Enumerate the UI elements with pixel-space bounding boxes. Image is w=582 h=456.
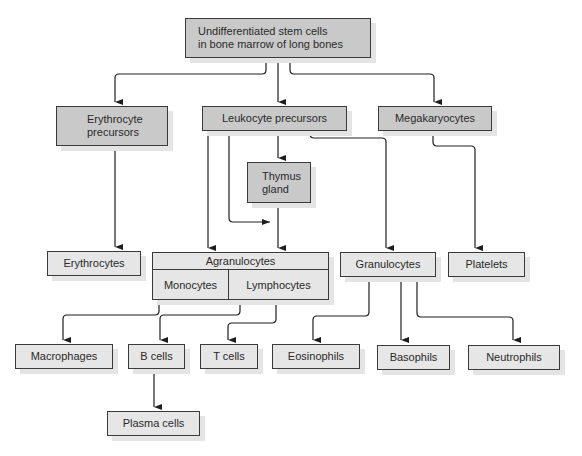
node-platelets: Platelets (448, 252, 525, 277)
node-agranulocytes: Agranulocytes Monocytes Lymphocytes (152, 252, 329, 300)
node-label: Granulocytes (356, 258, 421, 271)
node-label: T cells (213, 350, 245, 363)
node-lymphocytes: Lymphocytes (229, 270, 328, 299)
node-label: Megakaryocytes (395, 112, 475, 125)
agranulocytes-header: Agranulocytes (153, 253, 328, 270)
node-leukocyte-precursors: Leukocyte precursors (202, 106, 347, 131)
node-stem-cells: Undifferentiated stem cells in bone marr… (185, 18, 371, 58)
node-label: B cells (140, 350, 172, 363)
node-label: Platelets (465, 258, 507, 271)
node-label: Leukocyte precursors (222, 112, 327, 125)
node-basophils: Basophils (377, 345, 450, 370)
node-label: Erythrocytes (63, 257, 124, 270)
node-label: Macrophages (31, 350, 98, 363)
node-neutrophils: Neutrophils (468, 345, 560, 370)
node-label: Basophils (390, 351, 438, 364)
blood-cell-diagram: Undifferentiated stem cells in bone marr… (0, 0, 582, 456)
node-label: Undifferentiated stem cells in bone marr… (198, 25, 343, 51)
node-label: Neutrophils (486, 351, 542, 364)
node-t-cells: T cells (200, 344, 258, 369)
connector-arrows (0, 0, 582, 456)
node-eosinophils: Eosinophils (272, 344, 360, 369)
node-monocytes: Monocytes (153, 270, 229, 299)
node-thymus-gland: Thymus gland (247, 162, 311, 203)
node-erythrocytes: Erythrocytes (47, 251, 141, 276)
node-macrophages: Macrophages (15, 344, 113, 369)
node-label: Thymus gland (262, 170, 301, 196)
node-granulocytes: Granulocytes (340, 252, 436, 277)
node-label: Erythrocyte precursors (87, 113, 143, 139)
node-erythrocyte-precursors: Erythrocyte precursors (56, 106, 168, 146)
node-b-cells: B cells (128, 344, 185, 369)
node-label: Eosinophils (288, 350, 344, 363)
node-plasma-cells: Plasma cells (107, 411, 200, 436)
node-label: Plasma cells (123, 417, 185, 430)
node-megakaryocytes: Megakaryocytes (378, 106, 492, 131)
